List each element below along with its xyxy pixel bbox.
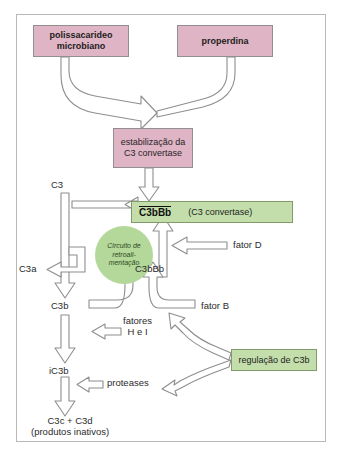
properdin-label: properdina [201,36,248,47]
arrow-regulation-to-proteases [162,360,231,396]
products-line1: C3c + C3d [48,415,93,426]
node-stabilization: estabilização daC3 convertase [113,128,193,168]
label-fatores-h-i: fatores H e I [123,315,152,338]
arrow-layer [17,15,327,443]
label-fator-b: fator B [201,300,229,311]
fatores-line2: H e I [127,326,147,337]
arrow-ic3b-to-products [55,377,75,416]
arrow-fatores-hi-inhibit [92,324,121,339]
arrow-c3-to-c3b [55,193,75,298]
arrow-properdin-to-stabilization [157,57,235,117]
label-products: C3c + C3d (produtos inativos) [31,415,109,438]
arrow-fator-d [172,237,227,254]
node-c3-convertase: C3bBb (C3 convertase) [131,201,293,223]
label-proteases: proteases [107,377,149,388]
label-ic3b: iC3b [49,365,69,376]
diagram-stage: polissacarideomicrobiano properdina esta… [17,15,327,443]
node-properdin: properdina [177,25,273,57]
convertase-name: C3bBb [139,206,171,218]
convertase-paren: (C3 convertase) [188,207,252,217]
arrow-merge-to-stabilization [61,57,157,129]
arrow-stabilization-to-convertase [139,168,159,201]
products-line2: (produtos inativos) [31,426,109,437]
arrow-convertase-to-c3 [72,197,138,212]
label-fator-d: fator D [233,239,262,250]
node-regulation-c3b: regulação de C3b [231,349,317,371]
polysaccharide-line1: polissacarideo [49,30,112,40]
node-feedback-circle: Circuito deretroali-mentação [95,226,153,284]
arrow-regulation-to-fatores [169,313,231,360]
feedback-line1: Circuito de [107,242,140,249]
node-polysaccharide: polissacarideomicrobiano [33,25,129,57]
label-c3a: C3a [19,263,36,274]
regulation-label: regulação de C3b [238,355,309,366]
arrow-c3b-to-ic3b [55,315,75,363]
pathway-figure: polissacarideomicrobiano properdina esta… [16,14,326,442]
arrow-proteases-inhibit [77,377,103,392]
feedback-line2: retroali- [112,251,136,258]
stabilization-line2: C3 convertase [124,148,182,158]
label-c3b: C3b [51,300,68,311]
polysaccharide-line2: microbiano [57,41,106,51]
stabilization-line1: estabilização da [121,137,186,147]
label-c3: C3 [51,179,63,190]
fatores-line1: fatores [123,315,152,326]
label-c3bbb-mid: C3bBb [135,263,164,274]
